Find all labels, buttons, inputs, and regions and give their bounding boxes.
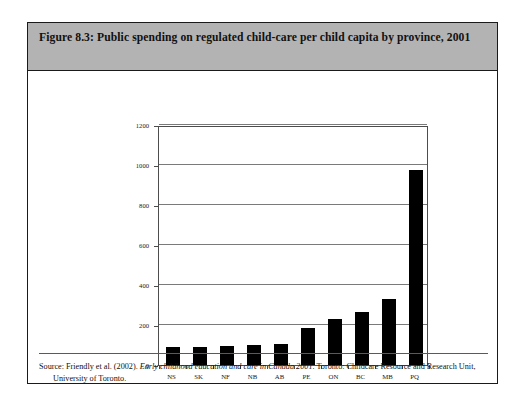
bar-on (328, 319, 342, 365)
plot-area (158, 126, 428, 366)
bar-bc (355, 312, 369, 365)
y-tick-label-1200: 1200 (136, 122, 149, 129)
y-tick-label-400: 400 (139, 282, 149, 289)
figure-box: Figure 8.3: Public spending on regulated… (27, 22, 498, 384)
bar-series (159, 127, 427, 365)
source-divider (39, 353, 488, 354)
bar-pe (301, 328, 315, 365)
bar-pq (409, 170, 423, 365)
y-tick-label-200: 200 (139, 322, 149, 329)
y-tick-label-800: 800 (139, 202, 149, 209)
source-title: Early childhood education and care in Ca… (140, 362, 313, 371)
bar-mb (382, 299, 396, 365)
gridline-1200 (159, 124, 427, 125)
figure-title-banner: Figure 8.3: Public spending on regulated… (28, 23, 497, 71)
y-tick-label-1000: 1000 (136, 162, 149, 169)
source-note: Source: Friendly et al. (2002). Early ch… (39, 361, 489, 386)
y-tick-label-600: 600 (139, 242, 149, 249)
source-prefix: Source: Friendly et al. (2002). (39, 362, 140, 371)
figure-title: Figure 8.3: Public spending on regulated… (39, 29, 479, 47)
chart-region: $ per child 6-12 yrs 0200400600800100012… (28, 71, 497, 353)
figure-page: Figure 8.3: Public spending on regulated… (0, 0, 528, 407)
